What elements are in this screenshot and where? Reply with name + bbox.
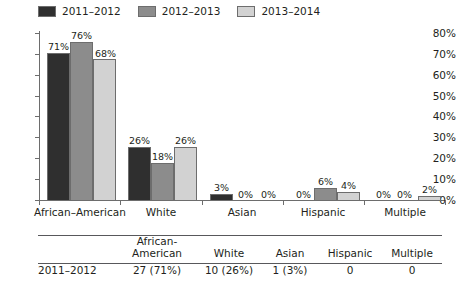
table-header-corner bbox=[38, 236, 118, 260]
value-label-hispanic-2011-2012: 0% bbox=[288, 190, 319, 200]
table-body: 2011–2012 27 (71%) 10 (26%) 1 (3%) 0 0 bbox=[38, 264, 442, 277]
chart-legend: 2011–2012 2012–2013 2013–2014 bbox=[0, 3, 456, 19]
bar-african-american-2013-2014 bbox=[93, 59, 116, 201]
table-cell-asian: 1 (3%) bbox=[262, 264, 318, 277]
table-header-hispanic: Hispanic bbox=[318, 236, 382, 260]
value-label-multiple-2013-2014: 2% bbox=[414, 185, 445, 195]
chart-figure: 2011–2012 2012–2013 2013–2014 80% 70% 60… bbox=[0, 0, 456, 283]
value-label-white-2012-2013: 18% bbox=[147, 152, 178, 162]
x-axis-label-hispanic: Hispanic bbox=[284, 206, 362, 218]
table-row-label: 2011–2012 bbox=[38, 264, 118, 277]
legend-label-2013-2014: 2013–2014 bbox=[261, 6, 320, 17]
table-head: African-American White Asian Hispanic Mu… bbox=[38, 231, 442, 264]
bar-african-american-2012-2013 bbox=[70, 42, 93, 201]
table-header-african-american: African-American bbox=[118, 236, 196, 260]
legend-swatch-2011-2012 bbox=[38, 6, 56, 17]
value-label-african-american-2011-2012: 71% bbox=[43, 42, 74, 52]
x-axis-label-asian: Asian bbox=[203, 206, 281, 218]
legend-swatch-2013-2014 bbox=[237, 6, 255, 17]
bar-african-american-2011-2012 bbox=[47, 53, 70, 201]
legend-swatch-2012-2013 bbox=[138, 6, 156, 17]
x-axis-label-white: White bbox=[122, 206, 200, 218]
value-label-hispanic-2013-2014: 4% bbox=[333, 181, 364, 191]
table-cell-multiple: 0 bbox=[382, 264, 442, 277]
legend-label-2011-2012: 2011–2012 bbox=[62, 6, 121, 17]
bar-white-2012-2013 bbox=[151, 163, 174, 201]
table-cell-african-american: 27 (71%) bbox=[118, 264, 196, 277]
value-label-african-american-2013-2014: 68% bbox=[90, 49, 121, 59]
table-header-asian: Asian bbox=[262, 236, 318, 260]
value-label-asian-2013-2014: 0% bbox=[253, 190, 284, 200]
value-label-white-2011-2012: 26% bbox=[124, 136, 155, 146]
legend-item-2012-2013: 2012–2013 bbox=[138, 6, 221, 17]
data-table-container: African-American White Asian Hispanic Mu… bbox=[38, 231, 442, 283]
bar-multiple-2013-2014 bbox=[418, 196, 441, 201]
value-label-white-2013-2014: 26% bbox=[170, 136, 201, 146]
table-header-multiple: Multiple bbox=[382, 236, 442, 260]
table-row: 2011–2012 27 (71%) 10 (26%) 1 (3%) 0 0 bbox=[38, 264, 442, 277]
table-header-row: African-American White Asian Hispanic Mu… bbox=[38, 236, 442, 260]
legend-item-2011-2012: 2011–2012 bbox=[38, 6, 121, 17]
bar-hispanic-2013-2014 bbox=[337, 192, 360, 201]
bar-chart-plot: 80% 70% 60% 50% 40% 30% 20% 10% 0% bbox=[0, 20, 456, 222]
x-axis-label-multiple: Multiple bbox=[366, 206, 444, 218]
table-cell-white: 10 (26%) bbox=[196, 264, 262, 277]
legend-item-2013-2014: 2013–2014 bbox=[237, 6, 320, 17]
data-table: African-American White Asian Hispanic Mu… bbox=[38, 231, 442, 276]
table-cell-hispanic: 0 bbox=[318, 264, 382, 277]
legend-label-2012-2013: 2012–2013 bbox=[162, 6, 221, 17]
value-label-african-american-2012-2013: 76% bbox=[66, 31, 97, 41]
table-header-white: White bbox=[196, 236, 262, 260]
